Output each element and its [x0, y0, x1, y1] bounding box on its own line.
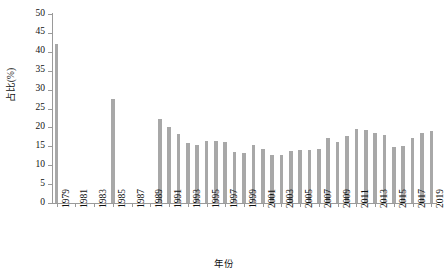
x-tick-mark — [225, 203, 226, 207]
y-axis-tick: 35 — [0, 71, 52, 72]
bar — [167, 127, 171, 203]
bar — [261, 149, 265, 203]
x-tick-label: 2013 — [379, 189, 389, 208]
x-tick-mark — [169, 203, 170, 207]
x-tick-label: 2007 — [323, 189, 333, 208]
x-tick-mark — [300, 203, 301, 207]
y-tick-label: 35 — [36, 64, 46, 75]
x-tick-mark — [150, 203, 151, 207]
bar — [55, 44, 59, 203]
bar — [317, 149, 321, 203]
x-tick-mark — [431, 203, 432, 207]
y-axis-tick: 10 — [0, 165, 52, 166]
x-tick-label: 2017 — [417, 189, 427, 208]
x-tick-mark — [394, 203, 395, 207]
y-tick-label: 30 — [36, 83, 46, 94]
bar — [205, 141, 209, 203]
bar — [111, 99, 115, 203]
bar — [186, 143, 190, 203]
x-tick-label: 2005 — [304, 189, 314, 208]
x-tick-label: 2019 — [435, 189, 445, 208]
y-tick-label: 15 — [36, 140, 46, 151]
x-tick-mark — [94, 203, 95, 207]
y-axis-tick: 5 — [0, 184, 52, 185]
y-tick-mark — [48, 203, 52, 204]
x-tick-label: 1985 — [117, 189, 127, 208]
y-tick-label: 5 — [40, 178, 45, 189]
x-tick-mark — [338, 203, 339, 207]
x-tick-mark — [413, 203, 414, 207]
y-tick-label: 10 — [36, 159, 46, 170]
x-tick-label: 2015 — [398, 189, 408, 208]
x-tick-label: 1999 — [248, 189, 258, 208]
y-axis-tick: 0 — [0, 203, 52, 204]
x-tick-mark — [207, 203, 208, 207]
x-tick-mark — [263, 203, 264, 207]
y-axis-tick: 45 — [0, 33, 52, 34]
x-tick-mark — [132, 203, 133, 207]
x-tick-label: 1989 — [154, 189, 164, 208]
x-tick-label: 2009 — [342, 189, 352, 208]
x-tick-mark — [319, 203, 320, 207]
y-axis-tick: 20 — [0, 127, 52, 128]
bar — [373, 133, 377, 203]
x-tick-mark — [57, 203, 58, 207]
x-tick-label: 2001 — [267, 189, 277, 208]
y-axis-tick: 25 — [0, 109, 52, 110]
x-tick-label: 1983 — [98, 189, 108, 208]
x-tick-label: 1981 — [79, 189, 89, 208]
y-axis-tick: 40 — [0, 52, 52, 53]
bar — [223, 142, 227, 203]
x-tick-mark — [113, 203, 114, 207]
x-tick-mark — [188, 203, 189, 207]
y-tick-label: 25 — [36, 102, 46, 113]
y-axis-tick: 15 — [0, 146, 52, 147]
x-tick-label: 1997 — [229, 189, 239, 208]
y-tick-label: 45 — [36, 26, 46, 37]
x-tick-mark — [281, 203, 282, 207]
y-axis-tick: 30 — [0, 90, 52, 91]
bar — [430, 131, 434, 203]
bar — [242, 153, 246, 203]
x-tick-label: 1991 — [173, 189, 183, 208]
y-tick-label: 20 — [36, 121, 46, 132]
y-axis-title: 占比(%) — [3, 49, 17, 121]
bar — [336, 142, 340, 203]
bar — [392, 147, 396, 203]
y-tick-label: 0 — [40, 197, 45, 208]
bar — [411, 138, 415, 203]
x-tick-mark — [356, 203, 357, 207]
x-tick-label: 2011 — [360, 189, 370, 208]
x-tick-label: 1995 — [211, 189, 221, 208]
y-tick-label: 50 — [36, 8, 46, 19]
x-axis-title: 年份 — [0, 256, 447, 270]
x-tick-mark — [375, 203, 376, 207]
bar — [298, 150, 302, 203]
x-tick-mark — [244, 203, 245, 207]
bar-chart-figure: 占比(%) 05101520253035404550 1979198119831… — [0, 0, 447, 277]
x-tick-label: 1987 — [136, 189, 146, 208]
plot-area — [52, 14, 436, 203]
y-tick-label: 40 — [36, 45, 46, 56]
bar — [355, 129, 359, 203]
y-axis-tick: 50 — [0, 14, 52, 15]
bar — [280, 155, 284, 203]
x-tick-mark — [75, 203, 76, 207]
x-tick-label: 1993 — [192, 189, 202, 208]
x-tick-label: 2003 — [285, 189, 295, 208]
x-tick-label: 1979 — [61, 189, 71, 208]
